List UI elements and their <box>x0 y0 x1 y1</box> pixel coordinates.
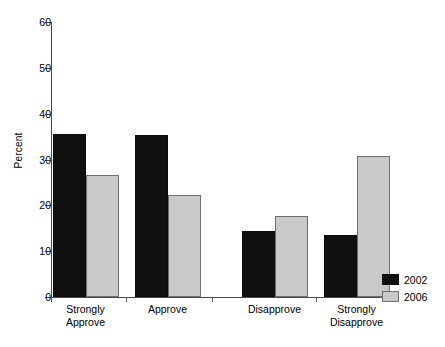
y-tick: 0 <box>0 297 51 298</box>
gray-swatch <box>382 291 399 302</box>
x-tick-mark <box>316 297 317 302</box>
y-tick-label: 0 <box>9 292 51 302</box>
x-tick-mark <box>212 297 213 302</box>
bar <box>86 175 119 297</box>
x-category-label: Approve <box>118 303 218 316</box>
bar <box>275 216 308 297</box>
x-category-label: Strongly Disapprove <box>307 303 407 328</box>
x-tick-mark <box>126 297 127 302</box>
y-tick: 20 <box>0 205 51 206</box>
legend-label: 2006 <box>404 291 427 303</box>
legend-item: 2002 <box>382 271 442 288</box>
legend-label: 2002 <box>404 274 427 286</box>
y-tick: 10 <box>0 251 51 252</box>
y-tick: 40 <box>0 114 51 115</box>
y-tick-label: 50 <box>9 63 51 73</box>
bar <box>135 135 168 297</box>
y-tick: 60 <box>0 22 51 23</box>
bar <box>53 134 86 297</box>
legend-item: 2006 <box>382 288 442 305</box>
y-tick-label: 30 <box>9 155 51 165</box>
chart-legend: 20022006 <box>382 271 442 305</box>
x-tick-mark <box>51 297 52 302</box>
y-tick-label: 60 <box>9 17 51 27</box>
black-swatch <box>382 274 399 285</box>
bar <box>324 235 357 297</box>
x-axis-line <box>51 297 396 298</box>
y-axis-title: Percent <box>13 116 24 186</box>
bar <box>168 195 201 297</box>
y-tick: 30 <box>0 160 51 161</box>
y-tick-label: 20 <box>9 200 51 210</box>
bar <box>242 231 275 297</box>
y-tick-label: 40 <box>9 109 51 119</box>
plot-area <box>51 22 396 297</box>
bar-chart: Percent 0102030405060 Strongly ApproveAp… <box>0 0 445 347</box>
y-tick-label: 10 <box>9 246 51 256</box>
y-tick: 50 <box>0 68 51 69</box>
